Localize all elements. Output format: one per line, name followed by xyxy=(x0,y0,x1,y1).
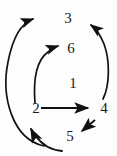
edge-4-to-3 xyxy=(91,25,108,99)
node-label-4: 4 xyxy=(97,101,111,116)
node-label-2: 2 xyxy=(29,101,43,116)
edge-5-to-2 xyxy=(31,129,62,151)
diagram-canvas: 1 2 3 4 5 6 xyxy=(0,0,117,156)
node-label-3: 3 xyxy=(61,11,75,26)
edge-4-to-5 xyxy=(82,120,95,131)
edge-2-to-3 xyxy=(6,19,44,146)
edge-2-to-6 xyxy=(35,46,58,103)
node-label-1: 1 xyxy=(66,76,80,91)
diagram-arrows-svg xyxy=(0,0,117,156)
node-label-5: 5 xyxy=(63,129,77,144)
node-label-6: 6 xyxy=(64,41,78,56)
